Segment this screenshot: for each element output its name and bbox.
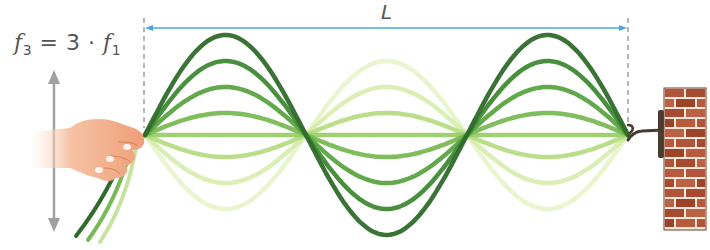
formula-factor: 3 xyxy=(66,30,81,55)
formula-rhs-symbol: f xyxy=(103,30,112,55)
formula-lhs-sub: 3 xyxy=(23,42,32,58)
length-dimension-arrow xyxy=(145,25,627,31)
brick xyxy=(665,159,674,167)
brick xyxy=(676,99,695,107)
formula-rhs-sub: 1 xyxy=(112,42,121,58)
standing-wave-diagram: f3 = 3 · f1 L xyxy=(0,0,710,250)
brick xyxy=(665,119,674,127)
brick xyxy=(686,209,705,217)
brick xyxy=(665,199,674,207)
length-label: L xyxy=(381,0,392,24)
brick xyxy=(665,209,684,217)
standing-wave-curves xyxy=(145,35,628,235)
hand-icon xyxy=(30,119,144,181)
brick xyxy=(665,89,684,97)
brick xyxy=(676,199,695,207)
brick xyxy=(686,149,705,157)
brick xyxy=(665,189,684,197)
brick xyxy=(697,219,705,227)
brick xyxy=(665,169,684,177)
brick xyxy=(697,199,705,207)
brick xyxy=(686,129,705,137)
brick xyxy=(665,179,674,187)
brick xyxy=(697,119,705,127)
brick xyxy=(665,99,674,107)
brick xyxy=(697,139,705,147)
wall-hook-icon xyxy=(628,110,664,158)
brick xyxy=(686,109,705,117)
brick-wall-icon xyxy=(664,88,706,230)
formula-lhs-symbol: f xyxy=(14,30,23,55)
brick xyxy=(676,219,695,227)
brick xyxy=(686,169,705,177)
brick xyxy=(665,129,684,137)
brick xyxy=(697,179,705,187)
brick xyxy=(665,109,684,117)
brick xyxy=(697,99,705,107)
brick xyxy=(697,159,705,167)
brick xyxy=(686,89,705,97)
brick xyxy=(676,139,695,147)
formula-equals: = xyxy=(40,30,59,55)
brick xyxy=(665,219,674,227)
brick xyxy=(686,189,705,197)
frequency-formula: f3 = 3 · f1 xyxy=(14,30,121,58)
formula-dot: · xyxy=(88,30,96,55)
brick xyxy=(676,179,695,187)
brick xyxy=(676,119,695,127)
brick xyxy=(676,159,695,167)
brick xyxy=(665,149,684,157)
brick xyxy=(665,139,674,147)
